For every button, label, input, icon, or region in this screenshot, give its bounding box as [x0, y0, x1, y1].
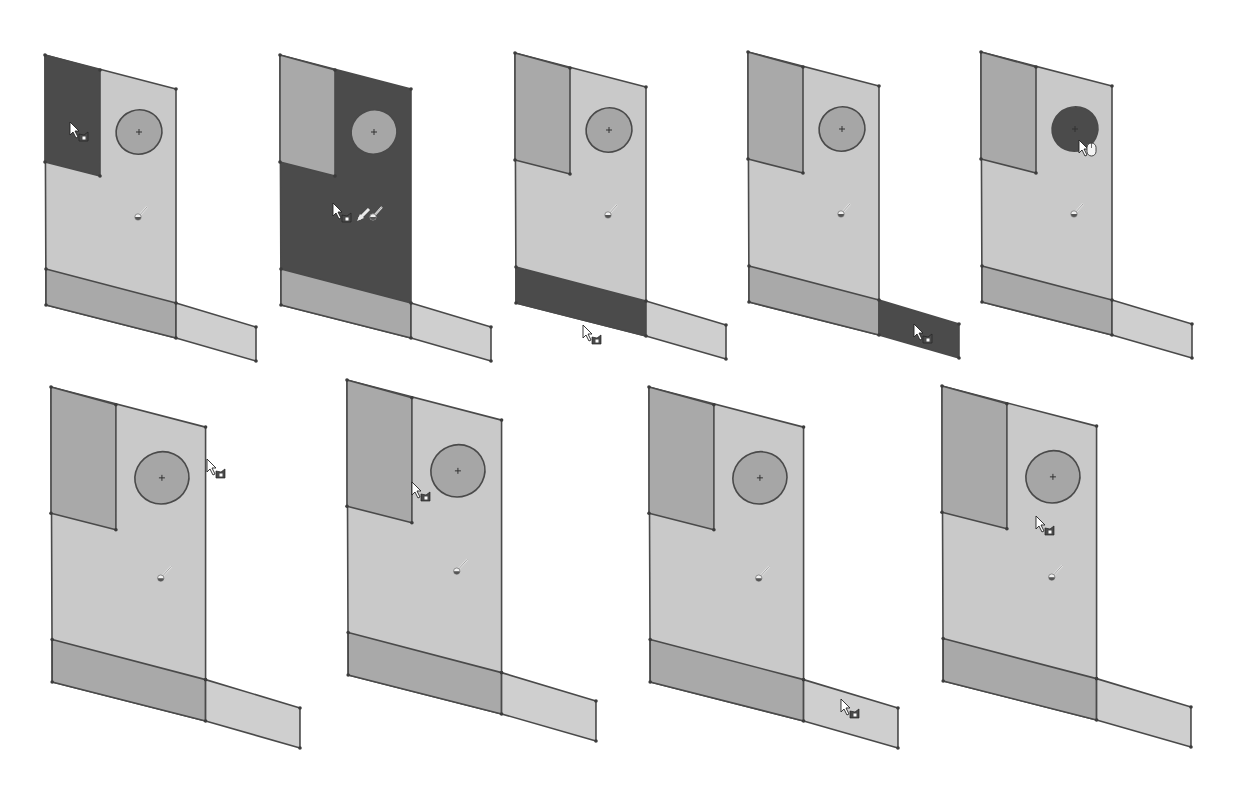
vertex-point[interactable]	[409, 87, 413, 91]
face-left-rectangle[interactable]	[347, 380, 412, 523]
vertex-point[interactable]	[802, 678, 806, 682]
vertex-point[interactable]	[644, 85, 648, 89]
vertex-point[interactable]	[44, 303, 48, 307]
vertex-point[interactable]	[298, 746, 302, 750]
vertex-point[interactable]	[647, 511, 651, 515]
face-extension-tab[interactable]	[502, 673, 596, 741]
vertex-point[interactable]	[648, 638, 652, 642]
vertex-point[interactable]	[279, 267, 283, 271]
vertex-point[interactable]	[278, 53, 282, 57]
vertex-point[interactable]	[98, 68, 102, 72]
vertex-point[interactable]	[98, 174, 102, 178]
face-extension-tab[interactable]	[206, 680, 300, 748]
vertex-point[interactable]	[513, 51, 517, 55]
vertex-point[interactable]	[489, 325, 493, 329]
vertex-point[interactable]	[594, 739, 598, 743]
vertex-point[interactable]	[114, 403, 118, 407]
vertex-point[interactable]	[50, 680, 54, 684]
vertex-point[interactable]	[346, 673, 350, 677]
vertex-point[interactable]	[345, 378, 349, 382]
vertex-point[interactable]	[877, 84, 881, 88]
vertex-point[interactable]	[1110, 298, 1114, 302]
vertex-point[interactable]	[500, 712, 504, 716]
vertex-point[interactable]	[333, 174, 337, 178]
vertex-point[interactable]	[409, 336, 413, 340]
vertex-point[interactable]	[514, 301, 518, 305]
vertex-point[interactable]	[1005, 527, 1009, 531]
vertex-point[interactable]	[489, 359, 493, 363]
vertex-point[interactable]	[279, 303, 283, 307]
vertex-point[interactable]	[513, 158, 517, 162]
face-left-rectangle[interactable]	[981, 52, 1036, 173]
vertex-point[interactable]	[802, 719, 806, 723]
face-left-rectangle[interactable]	[51, 387, 116, 530]
vertex-point[interactable]	[1034, 171, 1038, 175]
vertex-point[interactable]	[1095, 677, 1099, 681]
vertex-point[interactable]	[896, 746, 900, 750]
vertex-point[interactable]	[801, 65, 805, 69]
face-left-rectangle[interactable]	[280, 55, 335, 176]
vertex-point[interactable]	[500, 671, 504, 675]
vertex-point[interactable]	[1095, 424, 1099, 428]
vertex-point[interactable]	[1190, 356, 1194, 360]
vertex-point[interactable]	[801, 171, 805, 175]
vertex-point[interactable]	[514, 265, 518, 269]
face-extension-tab[interactable]	[411, 303, 491, 361]
face-extension-tab[interactable]	[176, 303, 256, 361]
vertex-point[interactable]	[648, 680, 652, 684]
vertex-point[interactable]	[877, 298, 881, 302]
vertex-point[interactable]	[254, 359, 258, 363]
vertex-point[interactable]	[43, 160, 47, 164]
vertex-point[interactable]	[49, 511, 53, 515]
vertex-point[interactable]	[712, 403, 716, 407]
face-left-rectangle[interactable]	[45, 55, 100, 176]
vertex-point[interactable]	[980, 300, 984, 304]
vertex-point[interactable]	[333, 68, 337, 72]
vertex-point[interactable]	[500, 418, 504, 422]
vertex-point[interactable]	[1189, 705, 1193, 709]
face-left-rectangle[interactable]	[942, 386, 1007, 529]
vertex-point[interactable]	[941, 679, 945, 683]
vertex-point[interactable]	[594, 699, 598, 703]
vertex-point[interactable]	[1189, 745, 1193, 749]
vertex-point[interactable]	[712, 528, 716, 532]
vertex-point[interactable]	[254, 325, 258, 329]
face-extension-tab[interactable]	[1097, 679, 1191, 747]
vertex-point[interactable]	[1190, 322, 1194, 326]
vertex-point[interactable]	[568, 172, 572, 176]
vertex-point[interactable]	[647, 385, 651, 389]
vertex-point[interactable]	[204, 719, 208, 723]
vertex-point[interactable]	[345, 504, 349, 508]
vertex-point[interactable]	[957, 322, 961, 326]
face-left-rectangle[interactable]	[515, 53, 570, 174]
vertex-point[interactable]	[644, 299, 648, 303]
vertex-point[interactable]	[410, 396, 414, 400]
vertex-point[interactable]	[957, 356, 961, 360]
vertex-point[interactable]	[410, 521, 414, 525]
vertex-point[interactable]	[1034, 65, 1038, 69]
vertex-point[interactable]	[174, 336, 178, 340]
vertex-point[interactable]	[644, 334, 648, 338]
vertex-point[interactable]	[980, 264, 984, 268]
vertex-point[interactable]	[1110, 84, 1114, 88]
vertex-point[interactable]	[298, 706, 302, 710]
vertex-point[interactable]	[724, 357, 728, 361]
vertex-point[interactable]	[1110, 333, 1114, 337]
vertex-point[interactable]	[724, 323, 728, 327]
vertex-point[interactable]	[50, 638, 54, 642]
vertex-point[interactable]	[114, 528, 118, 532]
vertex-point[interactable]	[568, 66, 572, 70]
vertex-point[interactable]	[49, 385, 53, 389]
face-left-rectangle[interactable]	[649, 387, 714, 530]
vertex-point[interactable]	[747, 264, 751, 268]
vertex-point[interactable]	[204, 425, 208, 429]
vertex-point[interactable]	[174, 87, 178, 91]
vertex-point[interactable]	[979, 157, 983, 161]
vertex-point[interactable]	[44, 267, 48, 271]
vertex-point[interactable]	[941, 637, 945, 641]
vertex-point[interactable]	[877, 333, 881, 337]
vertex-point[interactable]	[746, 157, 750, 161]
vertex-point[interactable]	[43, 53, 47, 57]
face-left-rectangle[interactable]	[748, 52, 803, 173]
vertex-point[interactable]	[204, 678, 208, 682]
